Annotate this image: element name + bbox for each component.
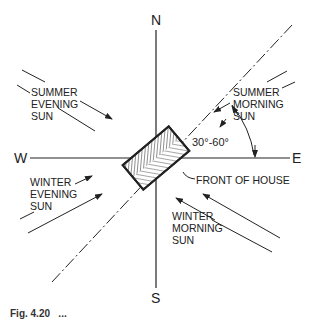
summer-evening-label: SUMMER EVENING SUN [31, 86, 78, 122]
winter-evening-label: WINTER EVENING SUN [30, 176, 77, 212]
north-label: N [151, 12, 161, 28]
summer-morning-label: SUMMER MORNING SUN [233, 86, 284, 122]
front-of-house-label: FRONT OF HOUSE [196, 174, 290, 186]
angle-label: 30°-60° [192, 136, 229, 148]
west-label: W [14, 150, 27, 166]
figure-caption: Fig. 4.20 ... [10, 308, 67, 320]
house-icon [123, 126, 190, 189]
south-label: S [151, 290, 160, 306]
winter-morning-label: WINTER MORNING SUN [172, 210, 223, 246]
east-label: E [292, 150, 301, 166]
